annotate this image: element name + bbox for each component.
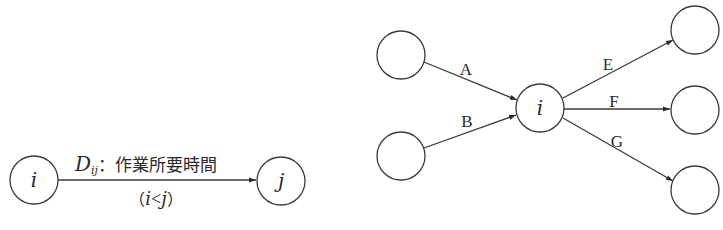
node-i-label: i bbox=[31, 168, 37, 192]
predecessor-node-b bbox=[377, 132, 425, 180]
center-node-i-label: i bbox=[537, 96, 543, 120]
activity-duration-label: Dij：作業所要時間 bbox=[74, 152, 217, 177]
activity-label-e: E bbox=[603, 55, 613, 74]
activity-definition-diagram: i j Dij：作業所要時間 （i<j） bbox=[10, 152, 305, 209]
node-relationship-diagram: i A B E F G bbox=[377, 6, 719, 214]
successor-node-g bbox=[671, 166, 719, 214]
predecessor-node-a bbox=[377, 31, 425, 79]
activity-arrow-e bbox=[563, 40, 673, 98]
activity-label-a: A bbox=[460, 60, 473, 79]
duration-separator: ： bbox=[98, 155, 115, 175]
duration-description: 作業所要時間 bbox=[115, 155, 217, 175]
condition-operator: < bbox=[151, 189, 161, 209]
duration-symbol: D bbox=[74, 152, 91, 176]
index-condition: （i<j） bbox=[129, 188, 183, 209]
condition-close-paren: ） bbox=[167, 190, 183, 209]
successor-node-f bbox=[671, 86, 719, 134]
network-diagram-canvas: i j Dij：作業所要時間 （i<j） i A B E F G bbox=[0, 0, 723, 230]
activity-label-f: F bbox=[609, 92, 618, 111]
successor-node-e bbox=[671, 6, 719, 54]
activity-label-g: G bbox=[611, 132, 623, 151]
activity-label-b: B bbox=[461, 112, 472, 131]
condition-open-paren: （ bbox=[129, 190, 145, 209]
